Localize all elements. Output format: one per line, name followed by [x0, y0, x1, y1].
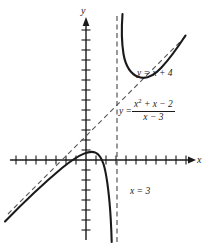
- function-fraction: x2 + x − 2x − 3: [132, 100, 175, 122]
- function-equation-label: y =x2 + x − 2x − 3: [119, 101, 175, 123]
- function-equation-lhs: y =: [119, 106, 132, 116]
- y-axis-ticks: [82, 30, 91, 230]
- slant-asymptote-line: [8, 34, 188, 214]
- function-denominator: x − 3: [132, 112, 175, 123]
- x-axis-label: x: [197, 155, 201, 165]
- curve-left-branch: [5, 152, 112, 242]
- slant-asymptote-label: y = x + 4: [137, 69, 173, 79]
- function-numerator-rest: + x − 2: [144, 99, 173, 109]
- rational-function-figure: y x y = x + 4 x = 3 y =x2 + x − 2x − 3: [0, 0, 210, 244]
- graph-canvas: [0, 0, 210, 244]
- function-numerator: x2 + x − 2: [132, 100, 175, 112]
- function-numerator-exponent: 2: [138, 97, 141, 104]
- vertical-asymptote-label: x = 3: [130, 187, 150, 197]
- y-axis-label: y: [81, 6, 85, 16]
